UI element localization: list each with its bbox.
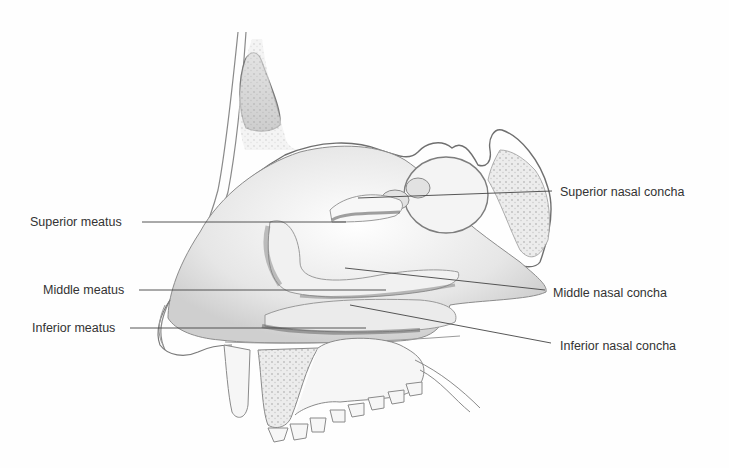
nasal-cavity-illustration — [0, 0, 729, 468]
anatomy-figure: Superior meatus Middle meatus Inferior m… — [0, 0, 729, 468]
label-inferior-nasal-concha: Inferior nasal concha — [560, 339, 676, 353]
label-inferior-meatus: Inferior meatus — [32, 321, 115, 335]
label-middle-nasal-concha: Middle nasal concha — [553, 286, 667, 300]
label-superior-nasal-concha: Superior nasal concha — [560, 185, 684, 199]
maxilla-and-teeth — [224, 338, 480, 442]
label-middle-meatus: Middle meatus — [43, 283, 124, 297]
label-superior-meatus: Superior meatus — [30, 215, 122, 229]
